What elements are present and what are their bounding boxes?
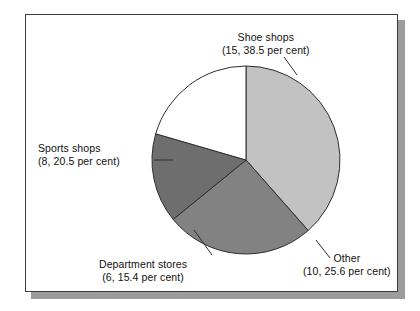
slice-label-sports-shops-name: Sports shops xyxy=(38,142,120,155)
slice-label-sports-shops-value: (8, 20.5 per cent) xyxy=(38,155,120,168)
leader-line-shoe-shops xyxy=(284,57,297,75)
slice-label-shoe-shops-value: (15, 38.5 per cent) xyxy=(222,44,310,57)
slice-label-shoe-shops-name: Shoe shops xyxy=(222,31,310,44)
pie-slices xyxy=(152,66,340,254)
slice-label-other-name: Other xyxy=(303,252,391,265)
figure-frame: Shoe shops (15, 38.5 per cent) Sports sh… xyxy=(25,14,398,292)
slice-label-department-stores-value: (6, 15.4 per cent) xyxy=(99,271,187,284)
slice-label-department-stores: Department stores (6, 15.4 per cent) xyxy=(99,258,187,283)
slice-label-department-stores-name: Department stores xyxy=(99,258,187,271)
slice-label-other-value: (10, 25.6 per cent) xyxy=(303,265,391,278)
slice-label-shoe-shops: Shoe shops (15, 38.5 per cent) xyxy=(222,31,310,56)
screenshot-canvas: Shoe shops (15, 38.5 per cent) Sports sh… xyxy=(0,0,420,311)
slice-label-sports-shops: Sports shops (8, 20.5 per cent) xyxy=(38,142,120,167)
slice-label-other: Other (10, 25.6 per cent) xyxy=(303,252,391,277)
